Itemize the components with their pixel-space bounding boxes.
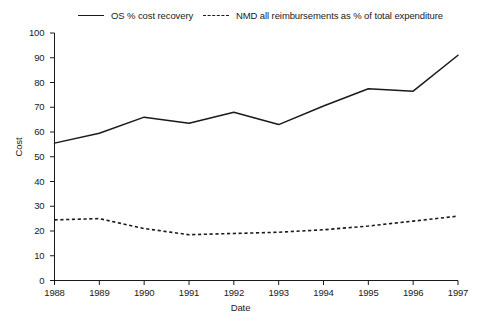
x-tick-label: 1991 (168, 288, 210, 298)
y-axis-ticks (50, 33, 55, 281)
x-axis-title: Date (0, 303, 481, 313)
x-tick-label: 1995 (347, 288, 389, 298)
plot-area: 0102030405060708090100 19881989199019911… (0, 0, 481, 327)
x-tick-label: 1992 (213, 288, 255, 298)
y-tick-label: 30 (19, 201, 45, 211)
x-tick-label: 1997 (437, 288, 479, 298)
y-tick-label: 20 (19, 226, 45, 236)
y-tick-label: 40 (19, 177, 45, 187)
x-tick-label: 1996 (392, 288, 434, 298)
y-axis-title: Cost (14, 130, 24, 164)
series-line-nmd-reimbursements (55, 216, 459, 235)
y-tick-label: 80 (19, 78, 45, 88)
chart-canvas (0, 0, 481, 327)
x-tick-label: 1988 (34, 288, 76, 298)
chart-figure: OS % cost recovery NMD all reimbursement… (0, 0, 481, 327)
y-tick-label: 90 (19, 53, 45, 63)
x-tick-label: 1993 (258, 288, 300, 298)
y-tick-label: 70 (19, 102, 45, 112)
x-tick-label: 1994 (303, 288, 345, 298)
data-series-lines (55, 55, 459, 234)
series-line-os-cost-recovery (55, 55, 459, 143)
y-tick-label: 0 (19, 276, 45, 286)
x-axis-ticks (55, 281, 459, 286)
axes-lines (54, 33, 458, 281)
y-tick-label: 100 (19, 28, 45, 38)
y-tick-label: 10 (19, 251, 45, 261)
x-tick-label: 1989 (78, 288, 120, 298)
x-tick-label: 1990 (123, 288, 165, 298)
